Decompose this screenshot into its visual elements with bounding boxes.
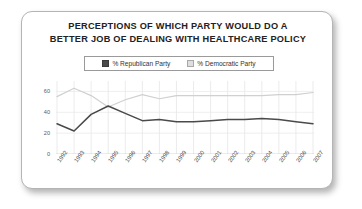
legend-label-republican: % Republican Party <box>112 60 170 67</box>
chart-title-line-2: BETTER JOB OF DEALING WITH HEALTHCARE PO… <box>22 33 333 46</box>
horizontal-gridlines <box>56 91 314 154</box>
legend-item-republican[interactable]: % Republican Party <box>102 60 170 67</box>
chart-title: PERCEPTIONS OF WHICH PARTY WOULD DO A BE… <box>22 20 333 45</box>
y-axis-tick-label: 0 <box>36 151 50 157</box>
y-axis-tick-label: 20 <box>36 130 50 136</box>
y-axis-tick-label: 60 <box>36 88 50 94</box>
series-line-republican <box>57 106 313 131</box>
chart-title-line-1: PERCEPTIONS OF WHICH PARTY WOULD DO A <box>22 20 333 33</box>
x-axis: 1992199319941995199619971998199920002001… <box>56 158 314 189</box>
y-axis: 0204060 <box>36 76 54 160</box>
line-chart-svg <box>56 81 314 154</box>
chart-card: PERCEPTIONS OF WHICH PARTY WOULD DO A BE… <box>21 11 333 189</box>
vertical-gridlines <box>57 81 313 154</box>
legend-swatch-icon <box>102 60 109 67</box>
data-series-group <box>57 88 313 131</box>
chart-legend: % Republican Party % Democratic Party <box>84 56 274 71</box>
legend-label-democratic: % Democratic Party <box>197 60 255 67</box>
y-axis-tick-label: 40 <box>36 109 50 115</box>
legend-swatch-icon <box>187 60 194 67</box>
plot-area <box>56 81 314 154</box>
legend-item-democratic[interactable]: % Democratic Party <box>187 60 255 67</box>
